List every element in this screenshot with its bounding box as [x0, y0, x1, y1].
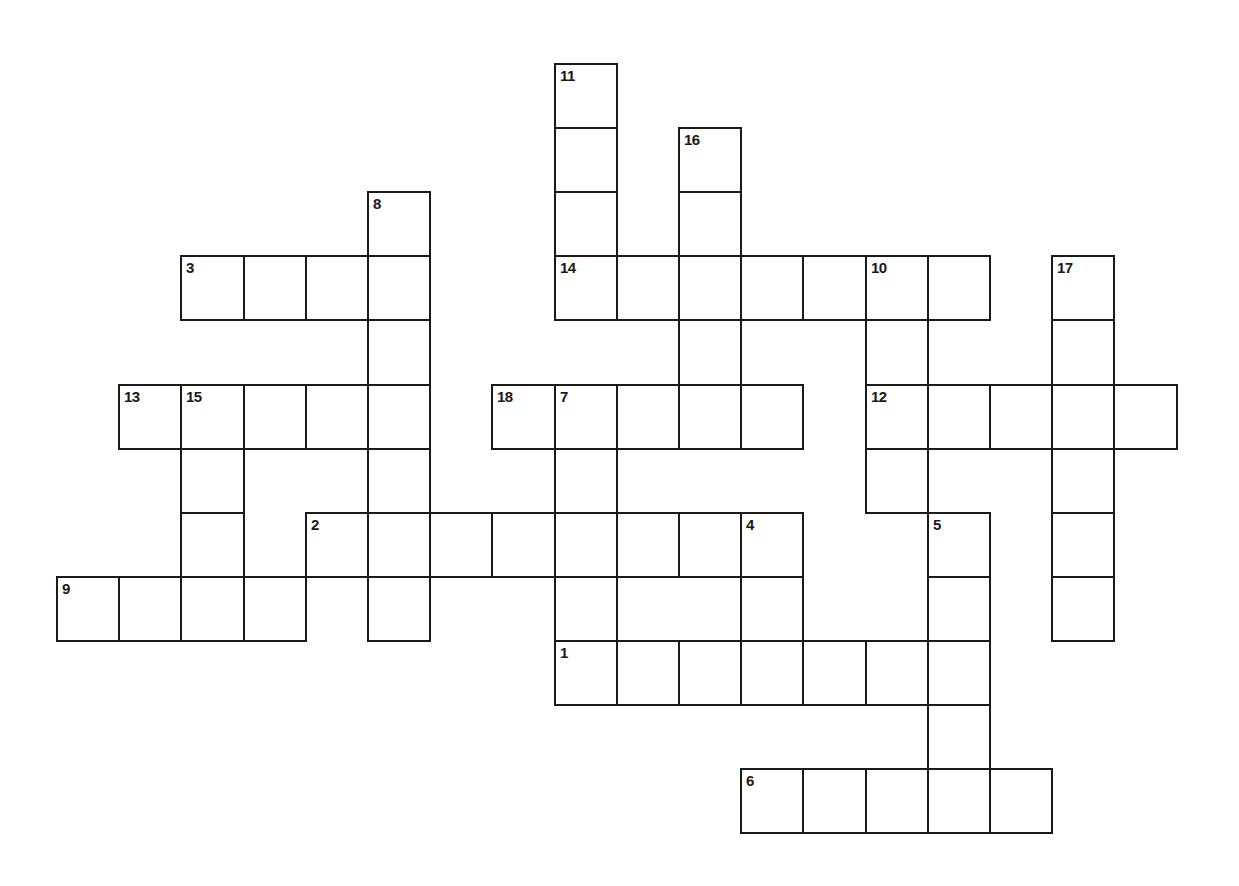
- crossword-cell[interactable]: 10: [865, 255, 929, 321]
- clue-number: 11: [560, 68, 575, 83]
- crossword-cell[interactable]: [927, 384, 991, 450]
- crossword-cell[interactable]: [243, 255, 307, 321]
- crossword-cell[interactable]: [243, 576, 307, 642]
- crossword-cell[interactable]: [554, 576, 618, 642]
- crossword-cell[interactable]: [367, 448, 431, 514]
- crossword-cell[interactable]: [243, 384, 307, 450]
- clue-number: 5: [933, 517, 941, 532]
- crossword-cell[interactable]: [802, 768, 867, 834]
- crossword-cell[interactable]: [118, 576, 182, 642]
- clue-number: 4: [746, 517, 754, 532]
- crossword-cell[interactable]: 7: [554, 384, 618, 450]
- clue-number: 18: [497, 389, 513, 404]
- crossword-cell[interactable]: [554, 191, 618, 257]
- crossword-cell[interactable]: 8: [367, 191, 431, 257]
- crossword-cell[interactable]: [678, 384, 742, 450]
- crossword-cell[interactable]: [678, 319, 742, 386]
- crossword-cell[interactable]: [678, 512, 742, 578]
- crossword-cell[interactable]: 12: [865, 384, 929, 450]
- crossword-cell[interactable]: [865, 768, 929, 834]
- crossword-cell[interactable]: [927, 640, 991, 706]
- crossword-cell[interactable]: 18: [491, 384, 556, 450]
- crossword-cell[interactable]: [989, 384, 1053, 450]
- clue-number: 1: [560, 645, 568, 660]
- crossword-cell[interactable]: [616, 384, 680, 450]
- crossword-cell[interactable]: [802, 640, 867, 706]
- crossword-cell[interactable]: [305, 255, 369, 321]
- crossword-cell[interactable]: [989, 768, 1053, 834]
- crossword-cell[interactable]: [802, 255, 867, 321]
- crossword-cell[interactable]: [1051, 512, 1115, 578]
- clue-number: 7: [560, 389, 568, 404]
- clue-number: 13: [124, 389, 140, 404]
- crossword-cell[interactable]: [367, 512, 431, 578]
- crossword-cell[interactable]: 9: [56, 576, 120, 642]
- crossword-cell[interactable]: 4: [740, 512, 804, 578]
- crossword-cell[interactable]: [367, 576, 431, 642]
- crossword-grid: 124356789101211141315161718: [0, 0, 1239, 886]
- crossword-cell[interactable]: [865, 319, 929, 386]
- crossword-cell[interactable]: [678, 255, 742, 321]
- crossword-cell[interactable]: 3: [180, 255, 245, 321]
- crossword-cell[interactable]: [1051, 448, 1115, 514]
- crossword-cell[interactable]: [1051, 319, 1115, 386]
- crossword-cell[interactable]: 1: [554, 640, 618, 706]
- crossword-cell[interactable]: [180, 512, 245, 578]
- crossword-cell[interactable]: [367, 255, 431, 321]
- clue-number: 12: [871, 389, 887, 404]
- crossword-cell[interactable]: [367, 319, 431, 386]
- clue-number: 16: [684, 132, 700, 147]
- crossword-cell[interactable]: 2: [305, 512, 369, 578]
- crossword-cell[interactable]: [429, 512, 493, 578]
- crossword-cell[interactable]: [554, 127, 618, 193]
- crossword-cell[interactable]: 11: [554, 63, 618, 129]
- crossword-cell[interactable]: [180, 448, 245, 514]
- crossword-cell[interactable]: [740, 640, 804, 706]
- crossword-cell[interactable]: 17: [1051, 255, 1115, 321]
- crossword-cell[interactable]: 15: [180, 384, 245, 450]
- clue-number: 9: [62, 581, 70, 596]
- crossword-cell[interactable]: [1051, 384, 1115, 450]
- crossword-cell[interactable]: [927, 576, 991, 642]
- crossword-cell[interactable]: [180, 576, 245, 642]
- crossword-cell[interactable]: [367, 384, 431, 450]
- crossword-cell[interactable]: [616, 255, 680, 321]
- crossword-cell[interactable]: [491, 512, 556, 578]
- crossword-cell[interactable]: [554, 448, 618, 514]
- clue-number: 3: [186, 260, 194, 275]
- crossword-cell[interactable]: 5: [927, 512, 991, 578]
- crossword-cell[interactable]: [554, 512, 618, 578]
- clue-number: 8: [373, 196, 381, 211]
- crossword-cell[interactable]: [1113, 384, 1178, 450]
- crossword-cell[interactable]: 13: [118, 384, 182, 450]
- crossword-cell[interactable]: [927, 255, 991, 321]
- clue-number: 14: [560, 260, 576, 275]
- crossword-cell[interactable]: [678, 640, 742, 706]
- crossword-cell[interactable]: [740, 255, 804, 321]
- crossword-cell[interactable]: 14: [554, 255, 618, 321]
- crossword-cell[interactable]: [740, 576, 804, 642]
- crossword-cell[interactable]: [865, 640, 929, 706]
- clue-number: 17: [1057, 260, 1073, 275]
- crossword-cell[interactable]: [927, 768, 991, 834]
- crossword-cell[interactable]: [865, 448, 929, 514]
- clue-number: 2: [311, 517, 319, 532]
- clue-number: 15: [186, 389, 202, 404]
- crossword-cell[interactable]: 6: [740, 768, 804, 834]
- crossword-cell[interactable]: [616, 512, 680, 578]
- crossword-cell[interactable]: [1051, 576, 1115, 642]
- clue-number: 10: [871, 260, 887, 275]
- clue-number: 6: [746, 773, 754, 788]
- crossword-cell[interactable]: [740, 384, 804, 450]
- crossword-cell[interactable]: [616, 640, 680, 706]
- crossword-cell[interactable]: [927, 704, 991, 770]
- crossword-cell[interactable]: [305, 384, 369, 450]
- crossword-cell[interactable]: [678, 191, 742, 257]
- crossword-cell[interactable]: 16: [678, 127, 742, 193]
